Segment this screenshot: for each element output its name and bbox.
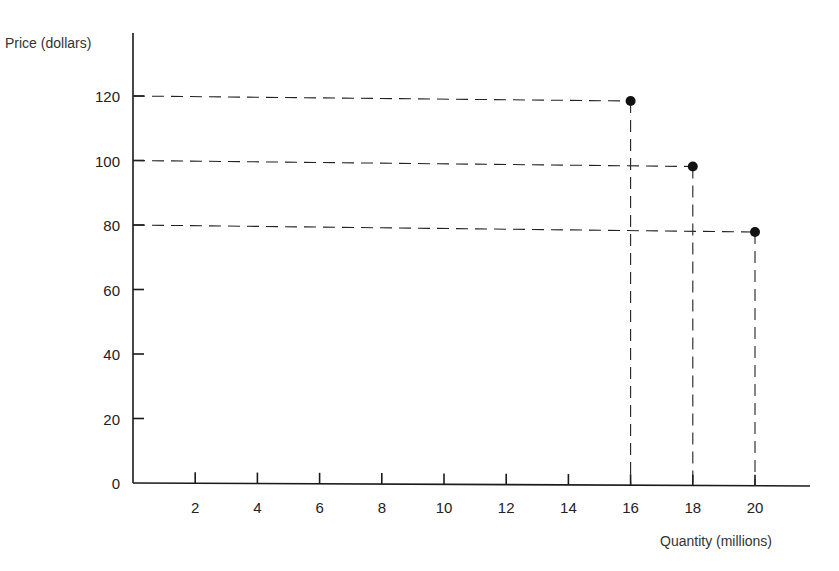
x-tick-label: 18	[684, 499, 701, 516]
x-tick-label: 4	[253, 499, 261, 516]
x-ticks: 2468101214161820	[191, 472, 763, 516]
data-point-marker	[750, 227, 760, 237]
x-tick-label: 16	[622, 499, 639, 516]
x-tick-label: 14	[560, 499, 577, 516]
y-tick-label: 20	[103, 411, 120, 428]
dashed-guide-lines	[133, 96, 755, 486]
y-tick-label: 0	[112, 475, 120, 492]
x-tick-label: 10	[436, 499, 453, 516]
x-tick-label: 12	[498, 499, 515, 516]
x-axis-title: Quantity (millions)	[660, 533, 772, 549]
y-tick-label: 120	[95, 88, 120, 105]
x-tick-label: 6	[315, 499, 323, 516]
horizontal-guide	[133, 225, 755, 232]
x-tick-label: 20	[747, 499, 764, 516]
horizontal-guide	[133, 161, 693, 167]
price-quantity-chart: Price (dollars) Quantity (millions) 0204…	[0, 0, 839, 571]
data-point-marker	[626, 96, 636, 106]
y-tick-label: 40	[103, 346, 120, 363]
x-tick-label: 8	[378, 499, 386, 516]
y-tick-label: 60	[103, 282, 120, 299]
data-point-marker	[688, 162, 698, 172]
y-ticks: 020406080100120	[95, 88, 144, 492]
y-tick-label: 80	[103, 217, 120, 234]
y-tick-label: 100	[95, 153, 120, 170]
x-tick-label: 2	[191, 499, 199, 516]
y-axis-title: Price (dollars)	[5, 35, 91, 51]
horizontal-guide	[133, 96, 631, 101]
x-axis	[133, 483, 810, 486]
